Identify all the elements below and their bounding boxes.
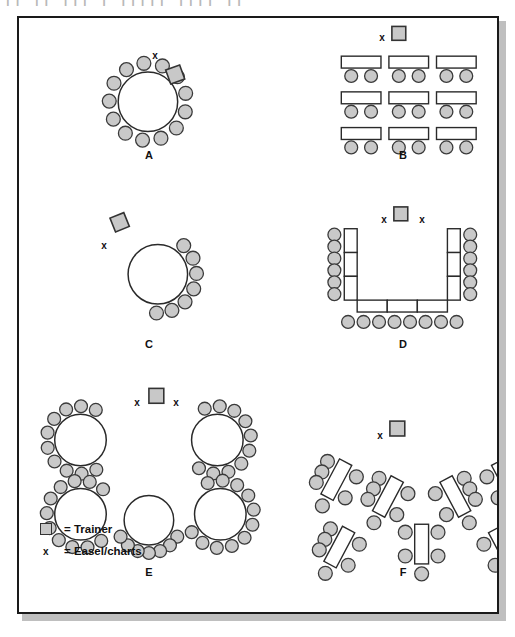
chair: [477, 537, 491, 551]
chair: [398, 549, 412, 563]
chair: [460, 141, 473, 154]
trainer-marker: [392, 26, 406, 40]
trainer-marker: [149, 388, 164, 403]
chair: [244, 429, 257, 442]
top-cropped-text: || || ||| | ||||| |||| ||: [0, 0, 515, 9]
table: [437, 128, 477, 140]
chair: [315, 499, 329, 513]
classroom-unit: [341, 128, 381, 154]
chair: [431, 549, 445, 563]
chair: [365, 70, 378, 83]
classroom-unit: [389, 56, 429, 82]
easel-mark-b: x: [372, 32, 392, 43]
chair: [68, 475, 81, 488]
chair: [361, 492, 375, 506]
chair: [440, 105, 453, 118]
chair: [309, 476, 323, 490]
chair: [401, 487, 415, 501]
table: [344, 253, 357, 277]
chair: [365, 141, 378, 154]
chair: [228, 404, 241, 417]
chair: [390, 508, 404, 522]
chair: [198, 402, 211, 415]
configuration-label-c: C: [129, 338, 169, 350]
round-table: [41, 400, 106, 480]
chair: [398, 525, 412, 539]
easel-mark-d: x: [374, 214, 394, 225]
chair: [460, 70, 473, 83]
table: [357, 300, 387, 312]
configuration-label-e: E: [129, 566, 169, 578]
chair: [41, 441, 54, 454]
chair: [431, 525, 445, 539]
chair: [338, 491, 352, 505]
table: [344, 229, 357, 253]
easel-mark-c: x: [94, 240, 114, 251]
chair: [216, 474, 229, 487]
table: [389, 128, 429, 140]
chair: [450, 315, 463, 328]
classroom-grid: [341, 56, 476, 154]
chair: [318, 566, 332, 580]
chair: [392, 70, 405, 83]
classroom-unit: [437, 128, 477, 154]
table: [417, 300, 447, 312]
round-table-top: [128, 245, 188, 305]
chair: [136, 133, 150, 147]
chair: [365, 105, 378, 118]
chair: [328, 228, 341, 241]
chair: [178, 105, 192, 119]
trainer-marker: [394, 207, 408, 221]
chair: [357, 315, 370, 328]
chair: [349, 470, 363, 484]
chair: [60, 403, 73, 416]
classroom-unit: [341, 92, 381, 118]
chair: [118, 126, 132, 140]
chair: [328, 276, 341, 289]
angled-table-unit: [428, 471, 482, 529]
chair: [239, 415, 252, 428]
chair: [190, 266, 204, 280]
chair: [213, 400, 226, 413]
trainer-marker: [110, 213, 129, 232]
chair: [460, 105, 473, 118]
chair: [235, 457, 248, 470]
table: [389, 92, 429, 104]
chair: [41, 426, 54, 439]
table: [341, 92, 381, 104]
classroom-unit: [389, 92, 429, 118]
table: [341, 56, 381, 68]
chair: [412, 105, 425, 118]
chair: [480, 470, 494, 484]
configuration-label-f: F: [383, 566, 423, 578]
configuration-label-a: A: [129, 149, 169, 161]
top-cropped-text-ghost: || || ||| | ||||| |||| ||: [6, 0, 247, 6]
chair: [345, 105, 358, 118]
chair: [341, 558, 355, 572]
round-table-top: [55, 414, 107, 466]
legend-easel-x-icon: x: [43, 546, 49, 557]
chair: [83, 475, 96, 488]
round-table: [128, 239, 203, 320]
chair: [328, 288, 341, 301]
chair: [462, 516, 476, 530]
chair: [373, 315, 386, 328]
chair: [89, 403, 102, 416]
round-table: [192, 400, 258, 480]
chair: [90, 463, 103, 476]
chair: [177, 239, 191, 253]
chair: [186, 251, 200, 265]
chair: [440, 141, 453, 154]
chair: [345, 70, 358, 83]
table: [447, 253, 460, 277]
classroom-unit: [437, 56, 477, 82]
classroom-unit: [437, 92, 477, 118]
angled-table-unit: [309, 454, 363, 512]
chair: [404, 315, 417, 328]
chair: [48, 412, 61, 425]
chair: [352, 537, 366, 551]
chair: [440, 508, 454, 522]
figure-frame: xAxBxCxxDxxExF = Trainerx= Easel/charts: [17, 16, 499, 614]
legend-label: = Trainer: [64, 523, 112, 535]
chair: [464, 240, 477, 253]
